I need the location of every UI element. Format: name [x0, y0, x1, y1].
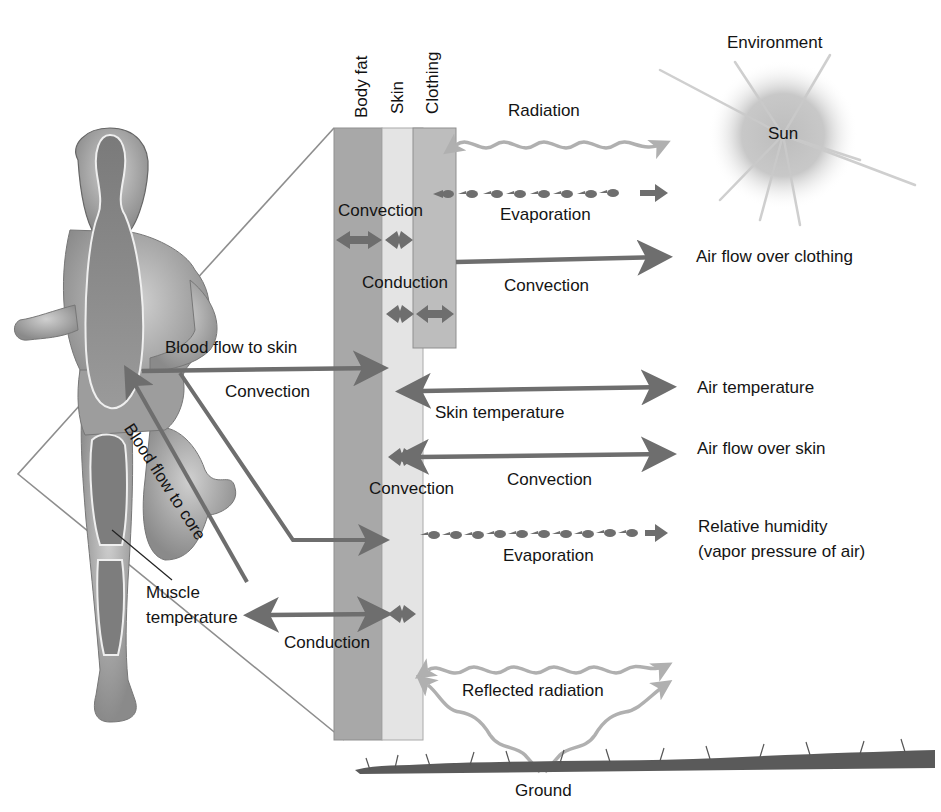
label-environment: Environment [727, 33, 822, 52]
label-vapor-pressure: (vapor pressure of air) [698, 542, 865, 561]
label-air-temperature: Air temperature [697, 378, 814, 397]
label-conduction-muscle: Conduction [284, 633, 370, 652]
evaporation-clothing-arrow [433, 184, 668, 202]
label-clothing: Clothing [423, 52, 443, 114]
label-convection-inner: Convection [338, 201, 423, 220]
label-air-flow-skin: Air flow over skin [697, 439, 825, 458]
label-muscle: Muscle [146, 583, 200, 602]
label-sun: Sun [768, 124, 798, 143]
air-flow-clothing-arrow [456, 257, 664, 262]
ground-grass [355, 739, 935, 774]
label-convection-clothing: Convection [504, 276, 589, 295]
label-convection-skin: Convection [507, 470, 592, 489]
label-relative-humidity: Relative humidity [698, 517, 827, 536]
label-evaporation-skin: Evaporation [503, 546, 594, 565]
blood-flow-skin-arrow [142, 368, 380, 371]
air-temperature-arrow [422, 387, 668, 391]
label-radiation: Radiation [508, 101, 580, 120]
radiation-arrow [456, 142, 666, 148]
label-body-fat: Body fat [352, 56, 372, 118]
muscle-conduction-arrow [270, 614, 384, 615]
label-evaporation-clothing: Evaporation [500, 205, 591, 224]
label-conduction-inner: Conduction [362, 273, 448, 292]
runner-figure [14, 128, 235, 722]
label-reflected-radiation: Reflected radiation [462, 681, 604, 700]
air-flow-skin-arrow [420, 454, 668, 457]
heat-exchange-diagram: Body fat Skin Clothing Environment Sun G… [0, 0, 941, 812]
label-air-flow-clothing: Air flow over clothing [696, 247, 853, 266]
label-skin: Skin [388, 81, 408, 114]
label-convection-skin-inner: Convection [369, 479, 454, 498]
label-skin-temperature: Skin temperature [435, 403, 564, 422]
evaporation-skin-arrow [420, 524, 668, 542]
label-ground: Ground [515, 781, 572, 800]
label-convection-blood: Convection [225, 382, 310, 401]
label-blood-flow-skin: Blood flow to skin [165, 338, 297, 357]
label-temperature: temperature [146, 608, 238, 627]
